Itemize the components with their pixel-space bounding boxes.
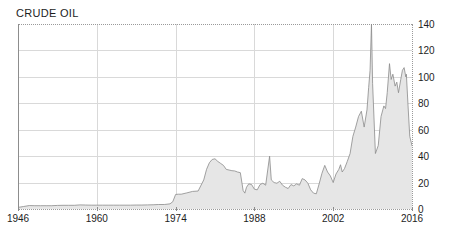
y-tick-label-120: 120: [418, 45, 435, 56]
x-tick-label-1988: 1988: [243, 213, 265, 224]
x-tick-mark-1974: [176, 207, 177, 211]
x-tick-label-1960: 1960: [86, 213, 108, 224]
x-tick-mark-2002: [333, 207, 334, 211]
x-tick-mark-1960: [97, 207, 98, 211]
x-tick-mark-1988: [254, 207, 255, 211]
series-area-line: [18, 24, 412, 209]
plot-right-border: [412, 24, 413, 210]
x-tick-label-1946: 1946: [7, 213, 29, 224]
x-tick-label-2016: 2016: [401, 213, 423, 224]
x-tick-mark-1946: [18, 207, 19, 211]
x-tick-mark-2016: [412, 207, 413, 211]
chart-title: CRUDE OIL: [16, 7, 79, 19]
y-tick-label-60: 60: [418, 124, 429, 135]
y-tick-label-80: 80: [418, 98, 429, 109]
x-tick-label-1974: 1974: [164, 213, 186, 224]
y-tick-label-40: 40: [418, 151, 429, 162]
y-tick-label-140: 140: [418, 19, 435, 30]
x-tick-label-2002: 2002: [322, 213, 344, 224]
x-axis-line: [18, 209, 412, 210]
series-fill: [18, 24, 412, 209]
y-tick-label-20: 20: [418, 177, 429, 188]
crude-oil-chart: CRUDE OIL 020406080100120140 19461960197…: [0, 0, 449, 248]
y-tick-label-100: 100: [418, 71, 435, 82]
